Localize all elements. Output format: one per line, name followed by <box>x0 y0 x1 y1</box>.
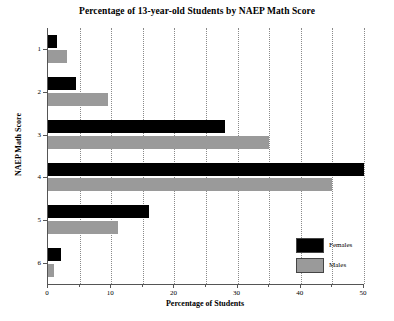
legend-swatch <box>296 238 324 253</box>
bar <box>48 77 76 90</box>
x-tick <box>173 284 174 288</box>
legend-swatch <box>296 258 324 273</box>
legend-label: Males <box>329 261 346 269</box>
x-tick-label: 40 <box>288 289 312 297</box>
x-tick-label: 30 <box>225 289 249 297</box>
bar-group <box>48 28 364 71</box>
bar <box>48 264 54 277</box>
y-tick <box>43 220 47 221</box>
x-tick-minor <box>142 284 143 287</box>
legend: FemalesMales <box>296 238 388 278</box>
y-axis-title: NAEP Math Score <box>14 85 23 205</box>
x-tick <box>110 284 111 288</box>
x-tick-label: 10 <box>98 289 122 297</box>
bar-group <box>48 156 364 199</box>
x-tick-label: 50 <box>351 289 375 297</box>
legend-label: Females <box>329 241 352 249</box>
x-tick-minor <box>331 284 332 287</box>
bar <box>48 136 269 149</box>
y-tick-label: 5 <box>28 216 41 224</box>
x-tick-minor <box>79 284 80 287</box>
bar <box>48 248 61 261</box>
y-tick-label: 2 <box>28 88 41 96</box>
naep-math-score-bar-chart: Percentage of 13-year-old Students by NA… <box>0 0 394 321</box>
bar-group <box>48 71 364 114</box>
bar <box>48 120 225 133</box>
y-tick-label: 6 <box>28 259 41 267</box>
bar <box>48 35 57 48</box>
bar <box>48 221 118 234</box>
x-tick <box>47 284 48 288</box>
bar <box>48 178 332 191</box>
x-tick-minor <box>268 284 269 287</box>
bar <box>48 50 67 63</box>
legend-item[interactable]: Females <box>296 238 388 255</box>
chart-title: Percentage of 13-year-old Students by NA… <box>0 6 394 16</box>
y-tick-label: 3 <box>28 131 41 139</box>
bar-group <box>48 199 364 242</box>
legend-item[interactable]: Males <box>296 258 388 275</box>
y-tick-label: 1 <box>28 45 41 53</box>
bar <box>48 163 364 176</box>
x-tick <box>300 284 301 288</box>
bar <box>48 205 149 218</box>
x-tick-label: 20 <box>161 289 185 297</box>
y-tick <box>43 92 47 93</box>
y-tick <box>43 135 47 136</box>
y-tick <box>43 49 47 50</box>
x-tick-label: 0 <box>35 289 59 297</box>
y-tick-label: 4 <box>28 173 41 181</box>
x-tick <box>237 284 238 288</box>
y-tick <box>43 263 47 264</box>
bar-group <box>48 113 364 156</box>
x-tick-minor <box>205 284 206 287</box>
x-axis-title: Percentage of Students <box>47 299 363 308</box>
bar <box>48 93 108 106</box>
x-tick <box>363 284 364 288</box>
y-tick <box>43 177 47 178</box>
